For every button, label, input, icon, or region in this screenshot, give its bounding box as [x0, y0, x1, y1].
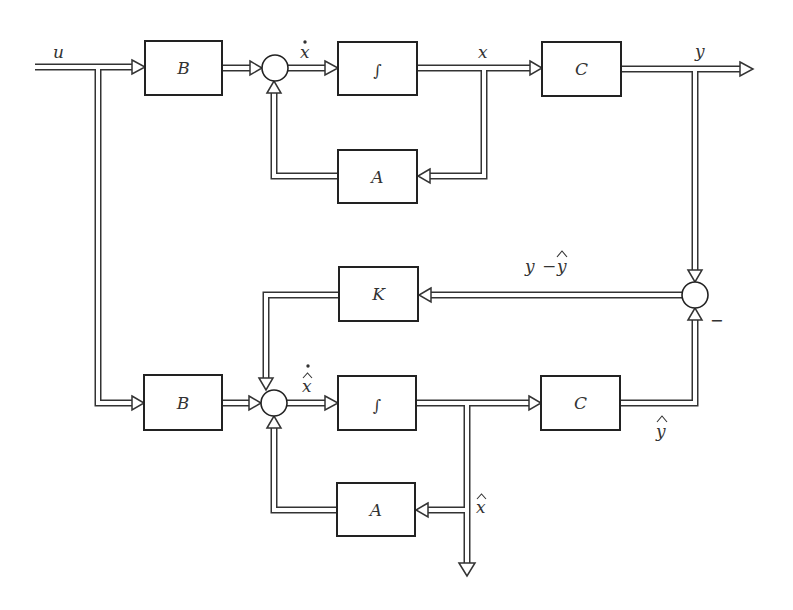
block-label: C: [575, 59, 588, 79]
block-K-gain: K: [339, 267, 418, 321]
arrow-right-icon: [249, 396, 261, 410]
block-C-plant: C: [542, 42, 621, 96]
arrow-down-icon: [259, 378, 273, 390]
arrow-left-icon: [418, 169, 430, 183]
block-label: K: [371, 284, 386, 304]
arrow-right-icon: [250, 61, 262, 75]
svg-text:x: x: [476, 497, 486, 517]
block-label: B: [176, 58, 190, 78]
summing-junction-observer: [261, 390, 287, 416]
integral-icon: ∫: [373, 61, 381, 80]
arrow-up-icon: [267, 416, 281, 428]
arrow-right-icon: [740, 62, 753, 76]
block-A-plant: A: [338, 150, 417, 203]
plant-blocks: B ∫ C A: [145, 41, 621, 203]
minus-sign: −: [710, 311, 723, 330]
svg-text:y: y: [524, 256, 535, 276]
block-integrator-observer: ∫: [338, 376, 416, 430]
arrow-up-icon: [688, 308, 702, 320]
svg-text:y: y: [655, 421, 666, 441]
arrow-right-icon: [530, 61, 542, 75]
block-C-observer: C: [541, 376, 620, 430]
arrow-right-icon: [529, 396, 541, 410]
arrow-right-icon: [132, 396, 144, 410]
summing-junction-error: [682, 282, 708, 308]
block-integrator-plant: ∫: [338, 42, 417, 95]
label-xhat: x: [476, 494, 486, 517]
label-xhat-dot: x: [302, 364, 312, 396]
label-x-dot: x: [300, 40, 310, 62]
label-x: x: [478, 42, 488, 62]
arrow-down-icon: [459, 563, 475, 576]
arrow-down-icon: [688, 270, 702, 282]
block-label: C: [574, 393, 587, 413]
svg-text:x: x: [300, 42, 310, 62]
arrow-right-icon: [325, 61, 338, 75]
label-yhat: y: [655, 416, 667, 441]
arrow-right-icon: [132, 60, 145, 74]
dot-icon: [306, 364, 309, 367]
observer-blocks: K B ∫ C A: [144, 267, 620, 536]
block-label: A: [369, 167, 383, 187]
summing-junction-plant: [262, 55, 288, 81]
svg-text:−: −: [542, 256, 556, 276]
dot-icon: [303, 40, 306, 43]
block-B-plant: B: [145, 41, 222, 95]
arrow-up-icon: [267, 81, 281, 93]
arrow-heads: [132, 60, 753, 576]
label-y-minus-yhat: y − y: [524, 251, 567, 276]
label-u: u: [53, 42, 64, 62]
block-A-observer: A: [337, 483, 415, 536]
arrow-left-icon: [419, 288, 431, 302]
svg-text:y: y: [556, 256, 567, 276]
label-y: y: [694, 41, 705, 61]
svg-text:x: x: [302, 376, 312, 396]
block-label: B: [176, 393, 190, 413]
block-label: A: [368, 500, 382, 520]
integral-icon: ∫: [373, 396, 381, 415]
block-B-observer: B: [144, 375, 222, 430]
arrow-left-icon: [416, 503, 428, 517]
arrow-right-icon: [325, 396, 338, 410]
block-diagram: B ∫ C A K B ∫ C: [0, 0, 793, 610]
